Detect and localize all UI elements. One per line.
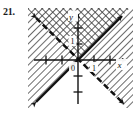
- coordinate-plane-figure: y x 1 1 0: [28, 8, 133, 108]
- y-axis-label: y: [68, 12, 73, 22]
- x-axis-label: x: [117, 60, 122, 70]
- figure-container: 21.: [0, 0, 136, 115]
- origin-label: 0: [71, 64, 75, 73]
- problem-number: 21.: [3, 7, 15, 17]
- x-tick-label-1: 1: [92, 64, 96, 73]
- y-tick-label-1: 1: [71, 37, 75, 46]
- graph-svg: y x 1 1 0: [28, 8, 133, 108]
